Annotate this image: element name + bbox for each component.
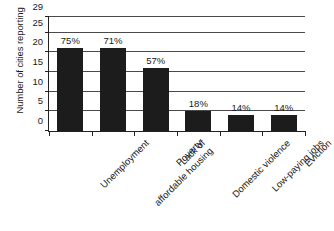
y-axis-title: Number of cities reporting bbox=[14, 0, 25, 126]
bar-group[interactable]: 14% bbox=[262, 17, 305, 131]
x-tick-mark bbox=[262, 131, 263, 136]
bar[interactable] bbox=[100, 48, 126, 131]
bar[interactable] bbox=[228, 115, 254, 131]
bar-value-label: 14% bbox=[231, 102, 250, 113]
bar[interactable] bbox=[271, 115, 297, 131]
bar[interactable] bbox=[57, 48, 83, 131]
x-tick-label: Unemployment bbox=[98, 138, 151, 191]
y-tick-label: 29 bbox=[32, 1, 43, 12]
y-tick-label: 15 bbox=[32, 56, 43, 67]
bar-value-label: 75% bbox=[61, 35, 80, 46]
y-tick-label: 5 bbox=[38, 95, 43, 106]
bar-group[interactable]: 18% bbox=[177, 17, 220, 131]
y-tick-label: 10 bbox=[32, 75, 43, 86]
x-tick-mark bbox=[220, 131, 221, 136]
bar-value-label: 57% bbox=[146, 55, 165, 66]
bar-group[interactable]: 75% bbox=[49, 17, 92, 131]
bar-value-label: 18% bbox=[189, 98, 208, 109]
bar-value-label: 14% bbox=[274, 102, 293, 113]
bar-group[interactable]: 71% bbox=[92, 17, 135, 131]
bar-group[interactable]: 14% bbox=[220, 17, 263, 131]
bar[interactable] bbox=[185, 111, 211, 131]
x-tick-mark bbox=[134, 131, 135, 136]
bar-group[interactable]: 57% bbox=[134, 17, 177, 131]
x-tick-label: Eviction bbox=[303, 138, 334, 169]
y-tick-label: 20 bbox=[32, 36, 43, 47]
x-tick-label: Domestic violence bbox=[230, 138, 292, 200]
x-tick-mark bbox=[49, 131, 50, 136]
y-tick-label: 25 bbox=[32, 16, 43, 27]
x-tick-mark bbox=[92, 131, 93, 136]
y-tick-label: 0 bbox=[38, 115, 43, 126]
x-tick-label: Lack ofaffordable housing bbox=[145, 138, 215, 208]
x-tick-mark bbox=[177, 131, 178, 136]
x-tick-mark bbox=[305, 131, 306, 136]
bar-value-label: 71% bbox=[103, 35, 122, 46]
bar[interactable] bbox=[143, 68, 169, 131]
plot-area: 051015202529 75%71%57%18%14%14% Unemploy… bbox=[48, 17, 305, 132]
